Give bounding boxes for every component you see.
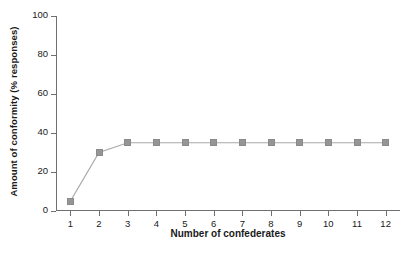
data-point-marker xyxy=(124,139,131,146)
x-tick xyxy=(242,211,243,216)
data-point-marker xyxy=(382,139,389,146)
plot-area: 020406080100 123456789101112 xyxy=(56,16,400,211)
x-tick xyxy=(386,211,387,216)
y-tick-label: 40 xyxy=(37,126,48,137)
x-tick xyxy=(357,211,358,216)
data-point-marker xyxy=(182,139,189,146)
figure-caption xyxy=(8,255,412,264)
x-tick xyxy=(128,211,129,216)
y-axis-title: Amount of conformity (% responses) xyxy=(0,0,26,222)
data-point-marker xyxy=(210,139,217,146)
data-point-marker xyxy=(354,139,361,146)
data-point-marker xyxy=(67,198,74,205)
data-point-marker xyxy=(239,139,246,146)
x-tick xyxy=(300,211,301,216)
x-tick xyxy=(214,211,215,216)
x-tick xyxy=(99,211,100,216)
y-tick-label: 0 xyxy=(43,204,48,215)
x-tick xyxy=(185,211,186,216)
y-tick: 0 xyxy=(51,211,56,212)
x-tick xyxy=(156,211,157,216)
y-tick-label: 20 xyxy=(37,165,48,176)
x-tick xyxy=(70,211,71,216)
series-line xyxy=(56,16,400,211)
y-tick-label: 80 xyxy=(37,48,48,59)
x-axis-title: Number of confederates xyxy=(56,228,400,239)
data-point-marker xyxy=(325,139,332,146)
y-axis-title-text: Amount of conformity (% responses) xyxy=(8,26,19,196)
data-point-marker xyxy=(153,139,160,146)
data-point-marker xyxy=(96,149,103,156)
y-tick-label: 60 xyxy=(37,87,48,98)
y-tick-label: 100 xyxy=(32,9,48,20)
data-point-marker xyxy=(268,139,275,146)
chart-figure: Amount of conformity (% responses) 02040… xyxy=(0,0,420,264)
data-point-marker xyxy=(296,139,303,146)
x-tick xyxy=(271,211,272,216)
x-tick xyxy=(328,211,329,216)
